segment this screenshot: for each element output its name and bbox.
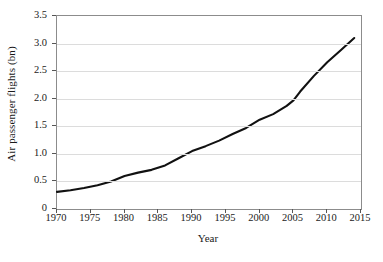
y-tick-label-0: 0 <box>0 203 47 214</box>
gridline-y-1.5 <box>57 126 361 127</box>
y-tick-mark-3.5 <box>52 15 56 16</box>
chart-container: Air passenger flights (bn) 00.51.01.52.0… <box>0 0 383 262</box>
gridline-y-0.5 <box>57 181 361 182</box>
gridline-y-2.0 <box>57 99 361 100</box>
gridline-y-3.0 <box>57 44 361 45</box>
plot-inner <box>57 16 361 209</box>
x-tick-label-2015: 2015 <box>340 213 380 224</box>
x-tick-mark-1970 <box>56 209 57 213</box>
data-series-line <box>57 16 361 209</box>
y-tick-label-0.5: 0.5 <box>0 175 47 186</box>
x-tick-mark-1980 <box>124 209 125 213</box>
y-tick-label-1.5: 1.5 <box>0 120 47 131</box>
y-tick-label-3.0: 3.0 <box>0 37 47 48</box>
x-tick-mark-2015 <box>360 209 361 213</box>
x-tick-mark-1975 <box>90 209 91 213</box>
y-tick-label-3.5: 3.5 <box>0 10 47 21</box>
y-tick-label-2.5: 2.5 <box>0 65 47 76</box>
y-tick-mark-2.5 <box>52 70 56 71</box>
x-axis-title: Year <box>56 232 360 244</box>
x-tick-mark-2000 <box>259 209 260 213</box>
y-tick-mark-0.5 <box>52 180 56 181</box>
x-tick-mark-1985 <box>157 209 158 213</box>
y-tick-mark-2.0 <box>52 98 56 99</box>
gridline-y-2.5 <box>57 71 361 72</box>
y-tick-mark-1.5 <box>52 125 56 126</box>
y-tick-mark-3.0 <box>52 43 56 44</box>
x-tick-mark-2005 <box>292 209 293 213</box>
x-tick-mark-1995 <box>225 209 226 213</box>
y-tick-mark-1.0 <box>52 153 56 154</box>
x-tick-mark-2010 <box>326 209 327 213</box>
gridline-y-1.0 <box>57 154 361 155</box>
y-tick-label-2.0: 2.0 <box>0 92 47 103</box>
y-tick-label-1.0: 1.0 <box>0 148 47 159</box>
plot-area <box>56 15 362 210</box>
x-tick-mark-1990 <box>191 209 192 213</box>
series-polyline <box>57 38 354 192</box>
